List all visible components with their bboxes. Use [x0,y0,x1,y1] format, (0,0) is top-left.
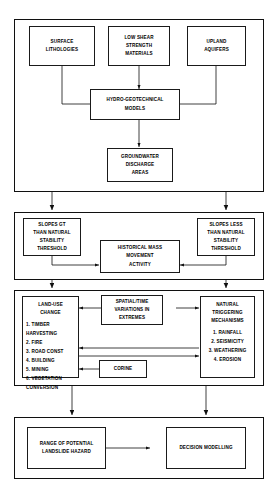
node-land-use-change-label: LAND-USE CHANGE [25,301,76,317]
node-corine-label: CORINE [114,365,133,373]
node-natural-triggering-mechanisms-label: NATURAL TRIGGERING MECHANISMS [211,301,244,325]
node-slopes-greater-than-threshold-label: SLOPES GT THAN NATURAL STABILITY THRESHO… [33,221,70,253]
node-natural-triggering-mechanisms-list: 1. RAINFALL 2. SEISMICITY 3. WEATHERING … [209,329,247,365]
node-land-use-change-list: 1. TIMBER HARVESTING 2. FIRE 3. ROAD CON… [25,321,76,393]
node-historical-mass-movement-activity-label: HISTORICAL MASS MOVEMENT ACTIVITY [118,244,162,268]
node-upland-aquifers-label: UPLAND AQUIFERS [204,38,229,54]
node-natural-triggering-mechanisms: NATURAL TRIGGERING MECHANISMS 1. RAINFAL… [200,296,255,378]
node-historical-mass-movement-activity: HISTORICAL MASS MOVEMENT ACTIVITY [100,240,180,273]
node-slopes-greater-than-threshold: SLOPES GT THAN NATURAL STABILITY THRESHO… [23,218,81,256]
node-surface-lithologies: SURFACE LITHOLOGIES [29,26,95,66]
node-range-of-potential-landslide-hazard-label: RANGE OF POTENTIAL LANDSLIDE HAZARD [40,440,94,456]
node-decision-modelling: DECISION MODELLING [166,427,246,469]
node-hydro-geotechnical-models: HYDRO-GEOTECHNICAL MODELS [90,89,180,120]
node-spatial-time-variations-label: SPATIAL/TIME VARIATIONS IN EXTREMES [114,298,149,322]
node-groundwater-discharge-areas-label: GROUNDWATER DISCHARGE AREAS [121,153,159,177]
node-low-shear-strength-materials-label: LOW SHEAR STRENGTH MATERIALS [124,34,153,58]
node-corine: CORINE [99,360,147,378]
node-surface-lithologies-label: SURFACE LITHOLOGIES [46,38,78,54]
node-decision-modelling-label: DECISION MODELLING [179,444,232,452]
node-hydro-geotechnical-models-label: HYDRO-GEOTECHNICAL MODELS [106,96,163,112]
node-groundwater-discharge-areas: GROUNDWATER DISCHARGE AREAS [107,148,173,182]
node-spatial-time-variations: SPATIAL/TIME VARIATIONS IN EXTREMES [101,295,163,325]
diagram-canvas: SURFACE LITHOLOGIES LOW SHEAR STRENGTH M… [0,0,278,497]
node-low-shear-strength-materials: LOW SHEAR STRENGTH MATERIALS [108,26,170,66]
node-land-use-change: LAND-USE CHANGE 1. TIMBER HARVESTING 2. … [22,296,79,378]
node-upland-aquifers: UPLAND AQUIFERS [187,26,246,66]
node-slopes-less-than-threshold-label: SLOPES LESS THAN NATURAL STABILITY THRES… [207,221,244,253]
node-range-of-potential-landslide-hazard: RANGE OF POTENTIAL LANDSLIDE HAZARD [27,427,106,469]
node-slopes-less-than-threshold: SLOPES LESS THAN NATURAL STABILITY THRES… [197,218,255,256]
